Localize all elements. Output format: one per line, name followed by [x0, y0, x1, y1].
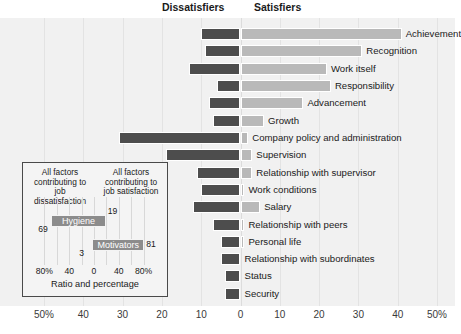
header-satisfiers: Satisfiers	[254, 1, 301, 13]
x-tick-label: 50%	[34, 309, 54, 320]
bar-row: Recognition	[0, 45, 455, 57]
inset-panel: All factors contributing to job dissatis…	[22, 162, 168, 297]
bar-satisfier	[241, 149, 253, 161]
inset-gridline-80	[144, 197, 145, 265]
category-label: Responsibility	[335, 78, 394, 94]
category-label: Status	[245, 268, 272, 284]
inset-tick-label: 40	[114, 266, 124, 276]
category-label: Salary	[264, 199, 291, 215]
inset-value-right: 19	[108, 206, 118, 216]
x-tick-label: 40	[392, 309, 403, 320]
bar-row: Supervision	[0, 149, 455, 161]
bar-satisfier	[241, 201, 261, 213]
bar-dissatisfier	[213, 115, 241, 127]
bar-dissatisfier	[221, 236, 241, 248]
bar-dissatisfier	[213, 219, 241, 231]
category-label: Security	[245, 286, 280, 302]
bar-satisfier	[241, 167, 253, 179]
category-label: Supervision	[256, 147, 306, 163]
category-label: Personal life	[248, 234, 301, 250]
category-label: Company policy and administration	[252, 130, 401, 146]
inset-tick-label: 40	[64, 266, 74, 276]
inset-bar-label: Hygiene	[52, 216, 105, 227]
inset-axis-label: Ratio and percentage	[23, 279, 167, 289]
bar-dissatisfier	[217, 80, 241, 92]
bar-satisfier	[241, 28, 402, 40]
inset-value-right: 81	[146, 239, 156, 249]
inset-bar: Motivators	[92, 239, 144, 251]
bar-satisfier	[241, 236, 245, 248]
category-label: Relationship with supervisor	[256, 165, 375, 181]
inset-value-left: 69	[38, 224, 48, 234]
category-label: Growth	[268, 113, 299, 129]
x-tick-label: 20	[156, 309, 167, 320]
bar-row: Work itself	[0, 63, 455, 75]
bar-dissatisfier	[201, 28, 240, 40]
x-tick-label: 0	[238, 309, 244, 320]
x-tick-label: 30	[117, 309, 128, 320]
bar-satisfier	[241, 45, 363, 57]
inset-gridline-0	[94, 197, 95, 265]
bar-dissatisfier	[205, 45, 240, 57]
inset-bar-label: Motivators	[93, 240, 143, 251]
category-label: Relationship with subordinates	[245, 251, 375, 267]
bar-satisfier	[241, 132, 249, 144]
inset-gridline-40	[119, 197, 120, 265]
bar-row: Responsibility	[0, 80, 455, 92]
x-tick-label: 20	[314, 309, 325, 320]
inset-gridline--60	[57, 197, 58, 265]
category-label: Achievement	[406, 26, 461, 42]
inset-bar: Hygiene	[51, 215, 106, 227]
bar-satisfier	[241, 80, 331, 92]
header-dissatisfiers: Dissatisfiers	[162, 1, 224, 13]
category-label: Relationship with peers	[248, 217, 347, 233]
x-tick-label: 40	[78, 309, 89, 320]
bar-satisfier	[241, 63, 327, 75]
bar-dissatisfier	[225, 270, 241, 282]
x-tick-label: 10	[274, 309, 285, 320]
inset-tick-label: 80%	[36, 266, 53, 276]
bar-satisfier	[241, 97, 304, 109]
bar-row: Advancement	[0, 97, 455, 109]
bar-satisfier	[241, 219, 245, 231]
bar-dissatisfier	[193, 201, 240, 213]
x-tick-label: 30	[353, 309, 364, 320]
bar-dissatisfier	[189, 63, 240, 75]
inset-caption-right: All factors contributing to job satisfac…	[99, 168, 163, 197]
bar-dissatisfier	[201, 184, 240, 196]
bar-row: Achievement	[0, 28, 455, 40]
category-label: Work itself	[331, 61, 376, 77]
inset-value-left: 3	[79, 248, 84, 258]
category-label: Recognition	[366, 43, 417, 59]
bar-dissatisfier	[166, 149, 241, 161]
x-tick-label: 10	[196, 309, 207, 320]
bar-dissatisfier	[221, 253, 241, 265]
bar-dissatisfier	[225, 288, 241, 300]
inset-gridline-60	[131, 197, 132, 265]
bar-row: Company policy and administration	[0, 132, 455, 144]
bar-satisfier	[241, 115, 265, 127]
bar-satisfier	[241, 184, 245, 196]
bar-dissatisfier	[119, 132, 241, 144]
bar-row: Growth	[0, 115, 455, 127]
x-tick-label: 50%	[427, 309, 447, 320]
inset-tick-label: 80%	[135, 266, 152, 276]
inset-gridline--40	[69, 197, 70, 265]
bar-dissatisfier	[197, 167, 240, 179]
bar-dissatisfier	[209, 97, 240, 109]
inset-tick-label: 0	[92, 266, 97, 276]
category-label: Work conditions	[248, 182, 316, 198]
category-label: Advancement	[307, 95, 366, 111]
